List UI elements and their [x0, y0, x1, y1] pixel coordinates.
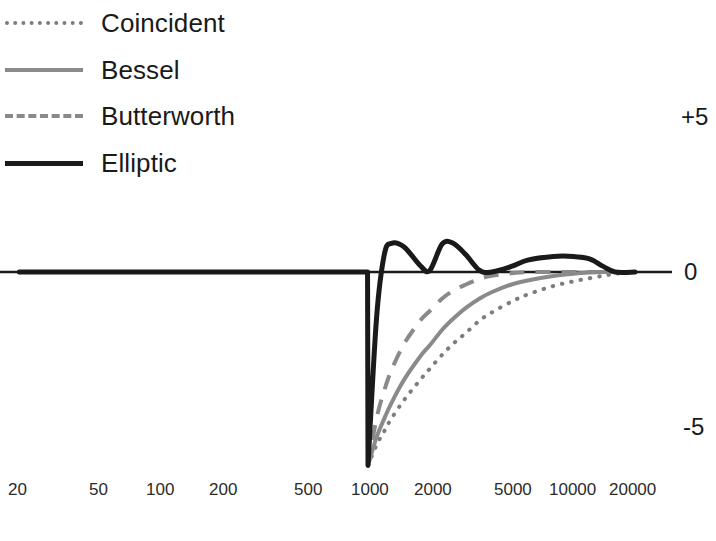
x-tick-label-50: 50: [89, 479, 108, 501]
legend: Coincident Bessel Butterworth Elliptic: [0, 0, 330, 190]
y-tick-label-minus5: -5: [683, 414, 704, 440]
series-line-butterworth: [368, 272, 635, 466]
x-tick-label-100: 100: [146, 479, 174, 501]
legend-swatch-dotted-icon: [5, 0, 83, 46]
legend-label-elliptic: Elliptic: [101, 140, 177, 186]
y-tick-label-zero: 0: [684, 259, 697, 285]
series-line-bessel: [368, 272, 635, 465]
x-tick-label-20000: 20000: [609, 479, 656, 501]
x-tick-label-500: 500: [294, 479, 322, 501]
legend-item-butterworth: Butterworth: [0, 93, 330, 139]
x-tick-label-5000: 5000: [494, 479, 532, 501]
x-tick-label-200: 200: [209, 479, 237, 501]
x-tick-label-20: 20: [8, 479, 27, 501]
series-line-coincident: [368, 272, 635, 465]
legend-item-elliptic: Elliptic: [0, 140, 330, 186]
legend-swatch-dashed-icon: [5, 93, 83, 139]
chart-root: Coincident Bessel Butterworth Elliptic +…: [0, 0, 716, 541]
x-tick-label-10000: 10000: [549, 479, 596, 501]
series-line-elliptic: [19, 241, 635, 465]
x-tick-label-1000: 1000: [351, 479, 389, 501]
legend-item-bessel: Bessel: [0, 47, 330, 93]
legend-item-coincident: Coincident: [0, 0, 330, 46]
y-tick-label-plus5: +5: [681, 104, 708, 130]
legend-swatch-solid-gray-icon: [5, 47, 83, 93]
legend-swatch-solid-black-icon: [5, 140, 83, 186]
legend-label-bessel: Bessel: [101, 47, 180, 93]
x-tick-label-2000: 2000: [414, 479, 452, 501]
legend-label-butterworth: Butterworth: [101, 93, 235, 139]
legend-label-coincident: Coincident: [101, 0, 225, 46]
